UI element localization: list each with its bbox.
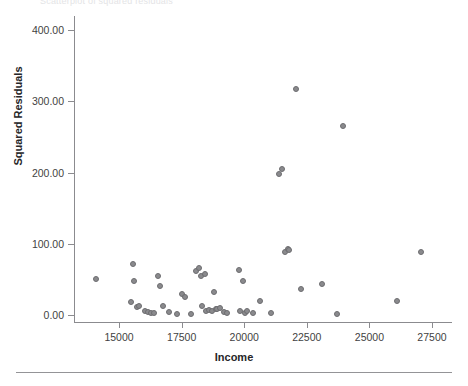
y-axis-tick-label: 300.00: [32, 96, 64, 107]
data-point: [240, 278, 246, 284]
y-axis-tick-label: 0.00: [44, 310, 64, 321]
data-point: [131, 278, 137, 284]
data-point: [279, 166, 285, 172]
x-axis-tick: [369, 322, 370, 328]
data-point: [151, 310, 157, 316]
x-axis-title: Income: [0, 351, 468, 363]
scatter-plot-figure: Scatterplot of squared residuals 0.00100…: [0, 0, 468, 386]
data-point: [334, 311, 340, 317]
data-point: [319, 281, 325, 287]
x-axis-tick: [119, 322, 120, 328]
data-point: [293, 86, 299, 92]
data-point: [136, 303, 142, 309]
data-point: [160, 303, 166, 309]
data-point: [188, 311, 194, 317]
data-point: [286, 247, 292, 253]
data-point: [418, 249, 424, 255]
plot-area: [74, 16, 452, 322]
x-axis-tick: [244, 322, 245, 328]
data-point: [174, 311, 180, 317]
x-axis-tick-label: 17500: [167, 332, 196, 343]
x-axis-tick: [432, 322, 433, 328]
data-point: [257, 298, 263, 304]
data-point: [394, 298, 400, 304]
data-point: [202, 271, 208, 277]
data-point: [340, 123, 346, 129]
y-axis-tick-label: 400.00: [32, 25, 64, 36]
data-point: [182, 294, 188, 300]
y-axis-tick-label: 100.00: [32, 238, 64, 249]
data-point: [128, 299, 134, 305]
y-axis-tick-label: 200.00: [32, 167, 64, 178]
data-point: [211, 289, 217, 295]
data-point: [130, 261, 136, 267]
x-axis-tick: [182, 322, 183, 328]
data-point: [166, 309, 172, 315]
footer-divider: [16, 372, 452, 373]
top-caption: Scatterplot of squared residuals: [40, 0, 173, 6]
x-axis-tick: [307, 322, 308, 328]
data-point: [236, 267, 242, 273]
y-axis-title: Squared Residuals: [12, 36, 24, 196]
data-point: [250, 310, 256, 316]
data-point: [155, 273, 161, 279]
x-axis-tick-label: 25000: [355, 332, 384, 343]
data-point: [268, 310, 274, 316]
data-point: [157, 283, 163, 289]
x-axis-line: [74, 322, 452, 323]
x-axis-tick-label: 20000: [230, 332, 259, 343]
x-axis-tick-label: 15000: [104, 332, 133, 343]
x-axis-tick-label: 27500: [417, 332, 446, 343]
data-point: [298, 286, 304, 292]
x-axis-tick-label: 22500: [292, 332, 321, 343]
data-point: [196, 265, 202, 271]
data-point: [224, 310, 230, 316]
data-point: [93, 276, 99, 282]
